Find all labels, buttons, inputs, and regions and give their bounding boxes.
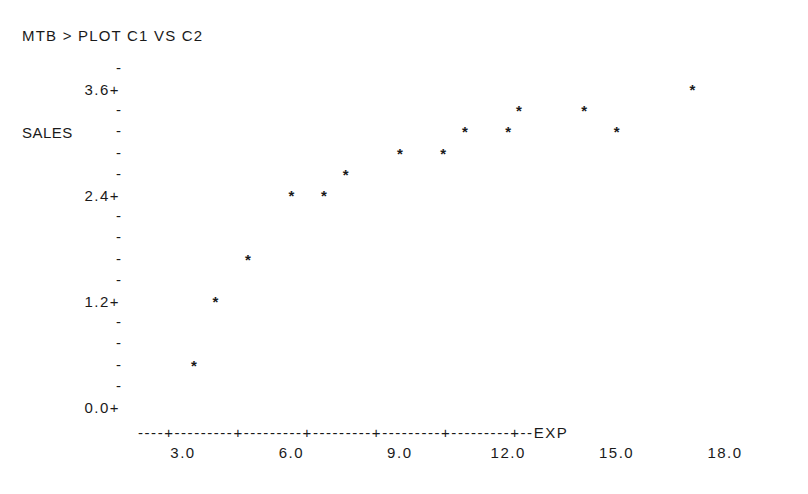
data-point-asterisk: * bbox=[321, 188, 327, 203]
y-minor-tick: - bbox=[116, 145, 121, 160]
y-tick-label: 1.2+ bbox=[60, 294, 120, 309]
y-minor-tick: - bbox=[116, 314, 121, 329]
data-point-asterisk: * bbox=[516, 103, 522, 118]
y-minor-tick: - bbox=[116, 272, 121, 287]
data-point-asterisk: * bbox=[245, 251, 251, 266]
y-minor-tick: - bbox=[116, 335, 121, 350]
x-tick-label: 18.0 bbox=[707, 445, 742, 460]
y-minor-tick: - bbox=[116, 60, 121, 75]
y-minor-tick: - bbox=[116, 229, 121, 244]
data-point-asterisk: * bbox=[505, 124, 511, 139]
y-tick-label: 3.6+ bbox=[60, 82, 120, 97]
y-minor-tick: - bbox=[116, 123, 121, 138]
data-point-asterisk: * bbox=[440, 145, 446, 160]
data-point-asterisk: * bbox=[614, 124, 620, 139]
y-minor-tick: - bbox=[116, 251, 121, 266]
y-tick-label: 2.4+ bbox=[60, 188, 120, 203]
data-point-asterisk: * bbox=[690, 82, 696, 97]
y-tick-label: 0.0+ bbox=[60, 400, 120, 415]
y-minor-tick: - bbox=[116, 102, 121, 117]
data-point-asterisk: * bbox=[213, 294, 219, 309]
command-line: MTB > PLOT C1 VS C2 bbox=[22, 28, 203, 43]
data-point-asterisk: * bbox=[581, 103, 587, 118]
x-tick-label: 6.0 bbox=[279, 445, 304, 460]
x-axis-line: ----+---------+---------+---------+-----… bbox=[138, 425, 568, 440]
y-minor-tick: - bbox=[116, 166, 121, 181]
data-point-asterisk: * bbox=[288, 188, 294, 203]
x-tick-label: 15.0 bbox=[599, 445, 634, 460]
x-tick-label: 9.0 bbox=[387, 445, 412, 460]
y-minor-tick: - bbox=[116, 357, 121, 372]
y-minor-tick: - bbox=[116, 378, 121, 393]
data-point-asterisk: * bbox=[343, 166, 349, 181]
x-tick-label: 12.0 bbox=[491, 445, 526, 460]
data-point-asterisk: * bbox=[462, 124, 468, 139]
data-point-asterisk: * bbox=[191, 357, 197, 372]
x-tick-label: 3.0 bbox=[170, 445, 195, 460]
data-point-asterisk: * bbox=[397, 145, 403, 160]
y-axis-label: SALES bbox=[22, 125, 73, 140]
y-minor-tick: - bbox=[116, 208, 121, 223]
